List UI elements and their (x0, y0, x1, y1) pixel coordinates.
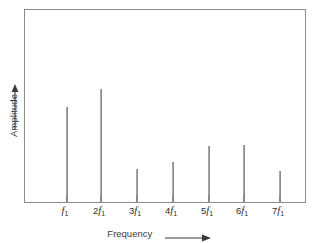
x-axis-label-group: Frequency (0, 224, 318, 240)
x-tick-subscript: 1 (173, 210, 177, 217)
spectral-line-6f1 (243, 145, 245, 202)
spectral-line-2f1 (100, 89, 102, 202)
x-tick-mark (243, 195, 244, 202)
x-tick-mark (100, 195, 101, 202)
y-axis-label-group: Amplitude (0, 40, 24, 205)
spectral-line-5f1 (208, 146, 210, 202)
plot-area (24, 9, 306, 203)
x-tick-subscript: 1 (244, 210, 248, 217)
x-tick-subscript: 1 (137, 210, 141, 217)
harmonic-spectrum-figure: Amplitude f1 2f1 3f1 4f1 5f1 6f1 7f1 (0, 0, 318, 243)
x-tick-subscript: 1 (209, 210, 213, 217)
x-tick-mark (136, 195, 137, 202)
x-tick-mark (66, 195, 67, 202)
x-tick-mark (208, 195, 209, 202)
x-tick-subscript: 1 (280, 210, 284, 217)
x-axis-label: Frequency (107, 228, 152, 239)
x-tick-subscript: 1 (101, 210, 105, 217)
x-tick-subscript: 1 (65, 210, 69, 217)
y-axis-label: Amplitude (8, 41, 19, 191)
x-tick-label-4f1: 4f1 (165, 205, 177, 216)
x-tick-mark (172, 195, 173, 202)
x-tick-label-2f1: 2f1 (93, 205, 105, 216)
x-tick-mark (279, 195, 280, 202)
x-tick-label-3f1: 3f1 (129, 205, 141, 216)
x-tick-label-f1: f1 (62, 205, 69, 216)
x-tick-label-6f1: 6f1 (236, 205, 248, 216)
x-tick-label-7f1: 7f1 (272, 205, 284, 216)
spectral-line-f1 (66, 107, 68, 202)
x-tick-label-5f1: 5f1 (201, 205, 213, 216)
right-arrow-icon (165, 229, 211, 239)
